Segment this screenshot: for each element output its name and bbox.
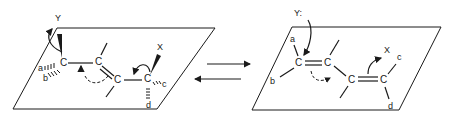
left-wedge-x <box>150 54 161 75</box>
left-label-c: c <box>162 79 167 89</box>
left-c3-down-line <box>106 86 114 97</box>
left-hash-d <box>146 89 150 98</box>
left-hash-b <box>48 70 60 77</box>
left-atom-c3: C <box>114 74 121 85</box>
right-bond-b <box>280 68 294 77</box>
left-c2-up-line <box>101 43 107 55</box>
right-curved-arrow-x-icon <box>368 58 381 74</box>
right-label-b: b <box>270 76 275 86</box>
left-wedge-up <box>57 34 62 58</box>
left-hash-a <box>45 63 54 70</box>
right-atom-c2: C <box>324 57 331 68</box>
right-dashed-arrow-icon <box>311 71 330 80</box>
reaction-diagram: Y C a b C C C X <box>0 0 453 119</box>
right-atom-c1: C <box>295 57 302 68</box>
right-label-a: a <box>290 34 295 44</box>
right-bond-d <box>385 87 389 99</box>
left-label-b: b <box>43 73 48 83</box>
left-label-y: Y <box>55 13 61 23</box>
left-bond-c2-c3b <box>100 69 112 79</box>
left-label-x: X <box>157 42 163 52</box>
right-bond-c <box>388 64 396 74</box>
right-label-x: X <box>384 45 390 55</box>
left-atom-c1: C <box>60 57 67 68</box>
right-label-c: c <box>397 52 402 62</box>
left-dashed-arrow-icon <box>85 76 108 83</box>
right-c2-up-line <box>330 40 339 55</box>
equilibrium-arrows <box>195 64 250 79</box>
right-bond-a <box>294 45 298 56</box>
left-hash-c <box>153 81 161 85</box>
left-label-a: a <box>38 63 43 73</box>
left-structure: Y C a b C C C X <box>13 13 215 110</box>
right-label-d: d <box>388 101 393 111</box>
right-label-y: Y: <box>294 8 302 18</box>
right-atom-c3: C <box>348 74 355 85</box>
right-bond-c2-c3 <box>334 66 346 76</box>
left-bond-c2-c3a <box>102 66 114 76</box>
right-plane <box>252 27 441 110</box>
right-atom-c4: C <box>380 74 387 85</box>
right-structure: Y: a C b C C X C c <box>252 8 441 111</box>
left-atom-c2: C <box>95 56 102 67</box>
right-curved-arrow-y-icon <box>304 20 311 55</box>
left-plane <box>13 28 215 109</box>
right-c3-down-line <box>340 86 348 98</box>
left-label-d: d <box>146 100 151 110</box>
